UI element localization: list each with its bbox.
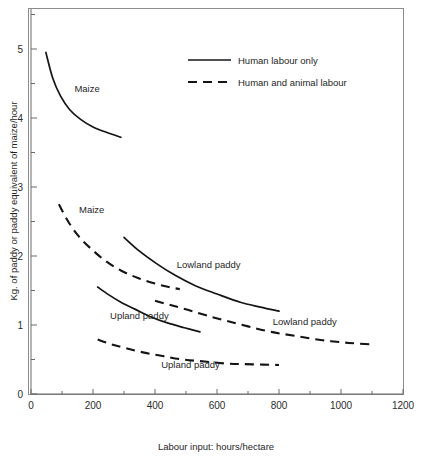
series-label-maize-dashed: Maize: [79, 204, 104, 215]
curve-lowland-paddy-human-labour-only: [124, 237, 279, 311]
series-label-maize-solid: Maize: [74, 83, 99, 94]
x-tick-label-1000: 1000: [330, 400, 353, 411]
x-tick-label-400: 400: [147, 400, 164, 411]
curve-maize-human-and-animal-labour: [59, 204, 180, 289]
series-label-lowland-dashed: Lowland paddy: [273, 316, 337, 327]
y-tick-label-1: 1: [17, 320, 23, 331]
x-tick-label-1200: 1200: [392, 400, 415, 411]
series-label-lowland-solid: Lowland paddy: [177, 259, 241, 270]
curve-maize-human-labour-only: [46, 52, 121, 137]
x-axis-ticks: [31, 389, 403, 394]
chart-canvas: 020040060080010001200 012345 MaizeMaizeL…: [0, 0, 421, 463]
series-annotations: MaizeMaizeLowland paddyLowland paddyUpla…: [74, 83, 337, 371]
chart-legend: Human labour only Human and animal labou…: [188, 55, 347, 88]
x-tick-label-200: 200: [85, 400, 102, 411]
x-axis-tick-labels: 020040060080010001200: [28, 400, 414, 411]
y-tick-label-0: 0: [17, 389, 23, 400]
x-tick-label-800: 800: [271, 400, 288, 411]
legend-label-human-and-animal-labour: Human and animal labour: [238, 77, 347, 88]
series-label-upland-solid: Upland paddy: [110, 310, 169, 321]
y-axis-title: Kg. of paddy or paddy equivalent of maiz…: [8, 101, 19, 300]
x-tick-label-0: 0: [28, 400, 34, 411]
x-axis-title: Labour input: hours/hectare: [158, 441, 274, 452]
legend-label-human-labour-only: Human labour only: [238, 55, 318, 66]
figure-container: 020040060080010001200 012345 MaizeMaizeL…: [0, 0, 421, 463]
series-label-upland-dashed: Upland paddy: [161, 359, 220, 370]
plot-frame: [29, 9, 404, 395]
x-tick-label-600: 600: [209, 400, 226, 411]
y-axis-ticks: [31, 9, 37, 394]
y-tick-label-5: 5: [17, 44, 23, 55]
